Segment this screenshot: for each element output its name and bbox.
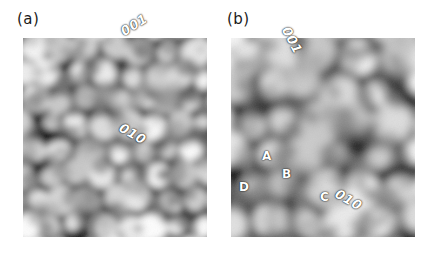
panel-b-label: (b) [227,10,250,28]
panel-a-label: (a) [17,10,39,28]
panel-b-texture [231,38,415,237]
panel-b-micrograph [231,38,415,237]
panel-b-site-label-a: A [262,149,271,163]
panel-a-direction-label-001: 001 [118,11,150,39]
panel-a-micrograph [23,38,207,237]
panel-b-site-label-c: C [320,190,329,204]
panel-b-site-label-b: B [282,167,291,181]
panel-a-texture [23,38,207,237]
figure-container: (a) [0,0,432,254]
panel-b-site-label-d: D [239,180,249,194]
